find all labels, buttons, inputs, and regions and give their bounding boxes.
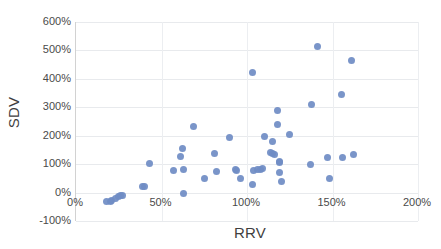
y-axis-tick-labels: 600%500%400%300%200%100%0%-100%: [15, 0, 71, 249]
x-axis-title: RRV: [180, 224, 320, 241]
x-tick-label: 100%: [221, 197, 271, 208]
x-tick-label: 50%: [136, 197, 186, 208]
y-tick-label: 600%: [23, 16, 71, 27]
x-tick-label: 0%: [50, 197, 100, 208]
scatter-chart: SDV 600%500%400%300%200%100%0%-100% 0%50…: [0, 0, 441, 249]
x-tick-label: 150%: [307, 197, 357, 208]
gridline-vertical: [418, 22, 419, 221]
y-tick-label: 300%: [23, 101, 71, 112]
y-tick-label: 500%: [23, 44, 71, 55]
y-tick-label: 100%: [23, 158, 71, 169]
x-axis-tick-labels: 0%50%100%150%200%: [75, 0, 417, 249]
y-tick-label: 400%: [23, 73, 71, 84]
x-tick-label: 200%: [392, 197, 441, 208]
y-tick-label: -100%: [23, 215, 71, 226]
y-tick-label: 200%: [23, 130, 71, 141]
